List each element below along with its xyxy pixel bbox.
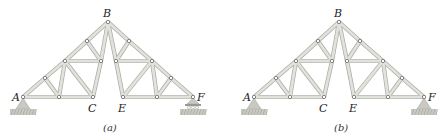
- member-J1-J4: [276, 78, 290, 97]
- joint-label-b: B: [102, 7, 111, 20]
- member-J2-C: [65, 61, 93, 97]
- joint-J5: [330, 59, 333, 62]
- joint-C: [91, 95, 94, 98]
- member-C-J5: [93, 61, 101, 97]
- member-J2-J3: [65, 41, 87, 61]
- joint-label-c: C: [319, 102, 328, 115]
- joint-J1: [43, 76, 46, 79]
- joint-label-f: F: [196, 91, 205, 104]
- truss-diagram-a: ABCEF(a): [10, 7, 207, 133]
- truss-members: [23, 22, 193, 97]
- joint-J2: [294, 59, 297, 62]
- truss-members: [254, 22, 424, 97]
- joint-label-c: C: [88, 102, 97, 115]
- joint-label-e: E: [348, 102, 357, 115]
- member-J3-J5: [87, 41, 101, 61]
- joint-B: [337, 20, 340, 23]
- joint-J5: [99, 59, 102, 62]
- member-J8-E: [123, 61, 152, 97]
- joint-J4: [288, 95, 291, 98]
- joint-J7: [358, 39, 361, 42]
- joint-J10: [155, 95, 158, 98]
- joint-J8: [150, 59, 153, 62]
- member-E-J6: [347, 61, 354, 97]
- member-J7-J6: [347, 41, 360, 61]
- pin-ground-a: [241, 109, 268, 115]
- pin-ground-f: [411, 109, 438, 115]
- joint-B: [106, 20, 109, 23]
- joint-J2: [63, 59, 66, 62]
- member-J7-J8: [129, 41, 152, 61]
- joint-J1: [274, 76, 277, 79]
- member-J3-J5: [318, 41, 332, 61]
- joint-J9: [169, 76, 172, 79]
- roller-ground-f: [180, 109, 207, 115]
- truss-figure: ABCEF(a)ABCEF(b): [0, 0, 440, 139]
- pin-ground-a: [10, 109, 37, 115]
- member-J2-J3: [296, 41, 318, 61]
- joint-J6: [345, 59, 348, 62]
- member-A-J1: [23, 78, 45, 97]
- joint-A: [252, 95, 255, 98]
- joint-label-a: A: [242, 91, 251, 104]
- joint-J7: [127, 39, 130, 42]
- joint-A: [21, 95, 24, 98]
- joint-label-e: E: [117, 102, 126, 115]
- member-A-J1: [254, 78, 276, 97]
- member-J8-E: [354, 61, 383, 97]
- joint-E: [352, 95, 355, 98]
- joint-label-f: F: [427, 91, 436, 104]
- joint-label-b: B: [333, 7, 342, 20]
- caption-a: (a): [103, 122, 117, 133]
- joint-J8: [381, 59, 384, 62]
- joint-J9: [400, 76, 403, 79]
- joint-J10: [386, 95, 389, 98]
- joint-J3: [85, 39, 88, 42]
- member-J9-F: [402, 78, 424, 97]
- member-J9-J10: [388, 78, 402, 97]
- member-J2-C: [296, 61, 324, 97]
- caption-b: (b): [334, 122, 348, 133]
- member-C-J5: [324, 61, 332, 97]
- joint-C: [322, 95, 325, 98]
- joint-F: [422, 95, 425, 98]
- member-J7-J8: [360, 41, 383, 61]
- joint-label-a: A: [11, 91, 20, 104]
- truss-diagram-b: ABCEF(b): [241, 7, 438, 133]
- truss-diagrams-canvas: ABCEF(a)ABCEF(b): [0, 0, 440, 139]
- joint-J3: [316, 39, 319, 42]
- member-J9-J10: [157, 78, 171, 97]
- member-J9-F: [171, 78, 193, 97]
- member-J1-J4: [45, 78, 59, 97]
- joint-J6: [114, 59, 117, 62]
- joint-J4: [57, 95, 60, 98]
- member-J7-J6: [116, 41, 129, 61]
- joint-F: [191, 95, 194, 98]
- member-E-J6: [116, 61, 123, 97]
- joint-E: [121, 95, 124, 98]
